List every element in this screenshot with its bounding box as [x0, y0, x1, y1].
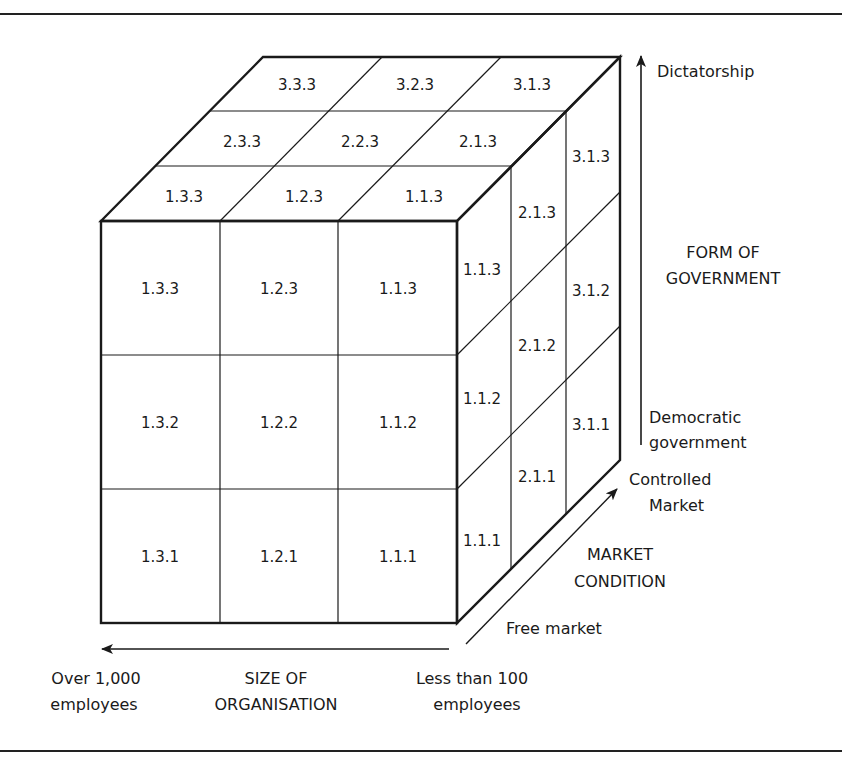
axis-title: SIZE OF: [245, 669, 308, 688]
cell-label: 3.1.3: [572, 148, 610, 166]
axis-near-label: Free market: [506, 619, 602, 638]
cell-label: 2.3.3: [223, 133, 261, 151]
axis-title: ORGANISATION: [215, 695, 338, 714]
axis-bottom-label: government: [649, 433, 747, 452]
size-axis: Over 1,000 employees SIZE OF ORGANISATIO…: [50, 649, 528, 714]
market-axis: Controlled Market MARKET CONDITION Free …: [466, 470, 711, 644]
cell-label: 1.3.2: [141, 414, 179, 432]
axis-far-label: Market: [649, 496, 704, 515]
axis-right-label: Less than 100: [416, 669, 528, 688]
cube-diagram: 1.3.3 1.2.3 1.1.3 1.3.2 1.2.2 1.1.2 1.3.…: [0, 0, 842, 770]
cell-label: 2.1.3: [459, 133, 497, 151]
axis-top-label: Dictatorship: [657, 62, 754, 81]
government-axis: Dictatorship FORM OF GOVERNMENT Democrat…: [641, 56, 780, 452]
front-face-labels: 1.3.3 1.2.3 1.1.3 1.3.2 1.2.2 1.1.2 1.3.…: [141, 280, 417, 566]
cell-label: 2.1.1: [518, 468, 556, 486]
top-face-labels: 3.3.3 3.2.3 3.1.3 2.3.3 2.2.3 2.1.3 1.3.…: [165, 76, 551, 206]
cell-label: 1.1.1: [463, 532, 501, 550]
axis-left-label: employees: [50, 695, 137, 714]
side-face-labels: 1.1.3 1.1.2 1.1.1 2.1.3 2.1.2 2.1.1 3.1.…: [463, 148, 610, 550]
cell-label: 3.1.1: [572, 416, 610, 434]
cell-label: 2.1.3: [518, 204, 556, 222]
axis-title: GOVERNMENT: [666, 269, 781, 288]
cell-label: 3.2.3: [396, 76, 434, 94]
cell-label: 3.3.3: [278, 76, 316, 94]
axis-far-label: Controlled: [629, 470, 711, 489]
cell-label: 1.2.3: [260, 280, 298, 298]
cell-label: 1.2.2: [260, 414, 298, 432]
cell-label: 1.1.2: [379, 414, 417, 432]
cell-label: 1.1.1: [379, 548, 417, 566]
axis-bottom-label: Democratic: [649, 408, 741, 427]
cell-label: 1.2.3: [285, 188, 323, 206]
cell-label: 2.1.2: [518, 337, 556, 355]
cell-label: 3.1.3: [513, 76, 551, 94]
axis-right-label: employees: [433, 695, 520, 714]
axis-title: MARKET: [587, 545, 653, 564]
cell-label: 1.1.3: [405, 188, 443, 206]
cell-label: 1.1.2: [463, 390, 501, 408]
axis-title: FORM OF: [686, 243, 760, 262]
axis-title: CONDITION: [574, 572, 666, 591]
cell-label: 2.2.3: [341, 133, 379, 151]
cell-label: 3.1.2: [572, 282, 610, 300]
cell-label: 1.3.1: [141, 548, 179, 566]
axis-left-label: Over 1,000: [51, 669, 140, 688]
cell-label: 1.1.3: [379, 280, 417, 298]
cell-label: 1.3.3: [165, 188, 203, 206]
cell-label: 1.3.3: [141, 280, 179, 298]
cell-label: 1.2.1: [260, 548, 298, 566]
cell-label: 1.1.3: [463, 261, 501, 279]
